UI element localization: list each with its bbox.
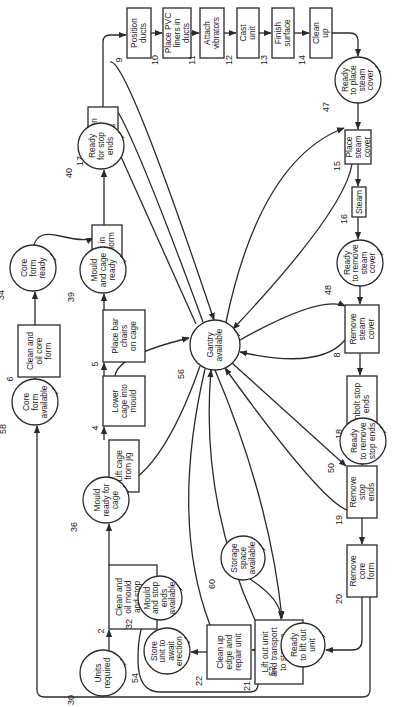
resource-number: 56	[176, 369, 186, 379]
edge-56-17	[118, 150, 196, 324]
activity-number: 22	[194, 676, 204, 686]
activity-number: 12	[224, 55, 234, 65]
resource-number: 48	[323, 285, 333, 295]
resource-node-47: Readyto placesteamcover47	[321, 57, 381, 112]
edge-9-56	[110, 62, 214, 320]
node-label: Gantryavailable	[205, 328, 224, 361]
activity-node-8: Removesteamcover8	[332, 305, 379, 358]
activity-number: 10	[150, 55, 160, 65]
edge-20-52	[326, 597, 362, 650]
resource-node-36: Mouldready forcage36	[69, 477, 129, 532]
activity-node-4: Lowercage intomould4	[90, 376, 145, 431]
resource-node-60: Storagespaceavailable60	[207, 536, 265, 589]
activity-number: 8	[332, 352, 342, 357]
activity-number: 15	[332, 161, 342, 171]
activity-node-10: Place PVCliners inducts10	[150, 8, 191, 65]
edge-56-8	[240, 304, 345, 340]
activity-number: 2	[96, 628, 106, 633]
node-label: Coreformready	[19, 257, 47, 279]
resource-number: 52	[267, 666, 277, 676]
resource-number: 47	[321, 102, 331, 112]
resource-node-58: Coreformavailable58	[0, 379, 58, 434]
resource-number: 60	[207, 579, 217, 589]
activity-node-11: Attachvibrators11	[187, 8, 224, 65]
activity-node-16: Steam16	[339, 187, 366, 224]
edge-19-56	[225, 368, 347, 510]
resource-number: 34	[0, 290, 6, 300]
node-label: Castunit	[238, 24, 257, 42]
activity-number: 16	[339, 214, 349, 224]
edge-8-56	[240, 340, 345, 359]
resource-number: 36	[69, 522, 79, 532]
resources: Unitsrequired30Mouldand stopendsavailabl…	[0, 57, 386, 705]
resource-node-48: Readyto removesteamcover48	[323, 240, 383, 295]
resource-number: 32	[124, 619, 134, 629]
node-label: Steam	[354, 190, 364, 214]
resource-number: 30	[66, 695, 76, 705]
activity-number: 21	[242, 681, 252, 691]
resource-node-39: Mouldand cageready39	[66, 247, 126, 302]
resource-node-50: Readyto removestop ends50	[326, 418, 386, 473]
edge-34-7	[34, 234, 93, 245]
resource-number: 54	[130, 673, 140, 683]
node-label: Finishsurface	[273, 19, 292, 47]
node-label: Lift cagefrom jig	[114, 450, 133, 482]
activity-node-13: Finishsurface13	[259, 8, 294, 65]
node-label: Attachvibrators	[202, 17, 221, 49]
activity-number: 4	[90, 425, 100, 430]
node-label: Clean upedge andrepair unit	[215, 633, 243, 671]
resource-number: 50	[326, 463, 336, 473]
edge-60-21	[250, 579, 281, 619]
resource-number: 40	[64, 168, 74, 178]
network-diagram: Clean andoil mouldand stopends2Lift cage…	[0, 0, 396, 707]
activity-node-22: Clean upedge andrepair unit22	[194, 625, 251, 686]
resource-node-56: Gantryavailable56	[176, 320, 240, 379]
edge-17-56a	[118, 112, 203, 322]
activity-node-14: Cleanup14	[297, 8, 332, 65]
activity-number: 14	[297, 55, 307, 65]
activity-node-5: Place barchairson cage5	[90, 310, 145, 367]
activity-node-6: Clean andoil coreform6	[5, 325, 60, 382]
activity-number: 6	[5, 376, 15, 381]
activity-number: 9	[114, 57, 124, 62]
activity-node-20: Removecoreform20	[334, 545, 377, 604]
activity-number: 20	[334, 594, 344, 604]
edge-14-47	[332, 33, 358, 56]
edge-17-9	[103, 35, 126, 107]
activity-node-19: Removestopends19	[334, 466, 377, 525]
node-label: Placesteamcover	[344, 136, 372, 159]
activity-node-12: Castunit12	[224, 8, 259, 65]
activity-number: 19	[334, 515, 344, 525]
resource-node-40: Readyfor stopends40	[64, 123, 124, 178]
resource-node-34: Coreformready34	[0, 245, 56, 300]
edge-56-21	[215, 370, 282, 618]
edge-56-19	[232, 363, 346, 466]
resource-number: 39	[66, 292, 76, 302]
activity-number: 13	[259, 55, 269, 65]
activity-number: 11	[187, 55, 197, 64]
activity-number: 5	[90, 361, 100, 366]
resource-number: 58	[0, 424, 8, 434]
